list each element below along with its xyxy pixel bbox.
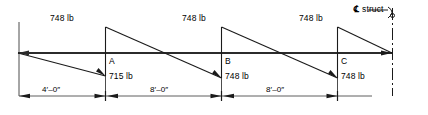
shear-slope-c-to-centerline <box>338 27 393 53</box>
dim-arrow-3-right <box>327 94 338 98</box>
centerline-glyph-icon: ℄ <box>353 4 359 14</box>
shear-slope-end-to-a <box>18 53 106 76</box>
shear-label-below-a: 715 lb <box>109 72 133 81</box>
shear-label-below-b: 748 lb <box>225 72 249 81</box>
load-label-3: 748 lb <box>299 14 323 23</box>
shear-diagram-figure: 748 lb 748 lb 748 lb A B C 715 lb 748 lb… <box>0 0 428 115</box>
dimension-label-1: 4′–0″ <box>42 86 60 94</box>
dim-arrow-2-right <box>211 94 222 98</box>
shear-arrow-c <box>328 70 338 78</box>
support-label-b: B <box>225 57 231 66</box>
shear-arrow-right <box>381 51 392 56</box>
dim-arrow-1-left <box>19 94 30 98</box>
support-label-c: C <box>341 57 347 66</box>
dim-arrow-1-right <box>95 94 106 98</box>
dim-arrow-2-left <box>107 94 118 98</box>
centerline-text: struct <box>362 4 383 14</box>
centerline-leader-arc <box>388 7 392 18</box>
support-label-a: A <box>109 57 115 66</box>
dimension-label-2: 8′–0″ <box>150 86 168 94</box>
dimension-label-3: 8′–0″ <box>266 86 284 94</box>
load-label-1: 748 lb <box>50 14 74 23</box>
centerline-annotation: ℄struct <box>353 5 384 14</box>
dim-arrow-3-left <box>223 94 234 98</box>
shear-label-below-c: 748 lb <box>341 72 365 81</box>
shear-arrow-b <box>212 70 222 78</box>
load-label-2: 748 lb <box>182 14 206 23</box>
